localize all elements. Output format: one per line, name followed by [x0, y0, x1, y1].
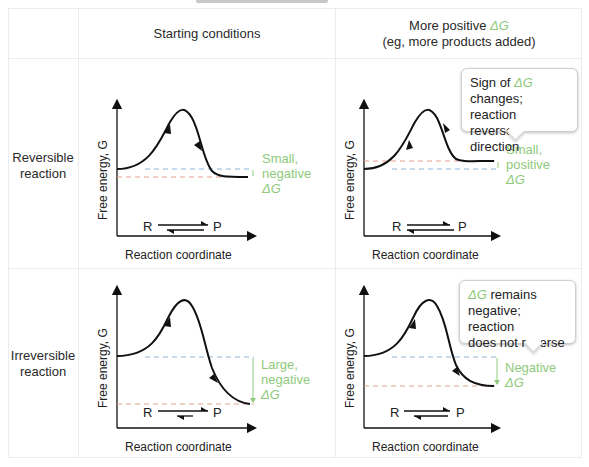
y-axis-label: Free energy, G	[343, 328, 357, 408]
delta-g-label: Negative ΔG	[505, 360, 556, 390]
reactant-label: R	[390, 405, 399, 420]
dg-text: Negative	[505, 360, 556, 375]
callout-text: remains	[487, 287, 537, 302]
energy-diagram	[0, 0, 589, 467]
product-label: P	[456, 405, 465, 420]
x-axis-label: Reaction coordinate	[372, 440, 479, 454]
delta-g-symbol: ΔG	[468, 287, 487, 302]
callout-remains-negative: ΔG remains negative; reaction does not r…	[459, 280, 576, 344]
dg-text: ΔG	[505, 375, 524, 390]
callout-text: negative; reaction	[468, 303, 521, 334]
callout-text: does not reverse	[468, 335, 565, 350]
